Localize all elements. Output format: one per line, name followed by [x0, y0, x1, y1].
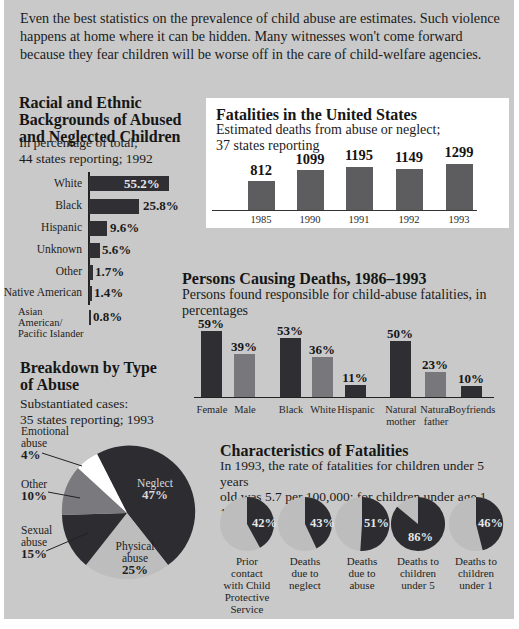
racial-row-other: Other: [0, 264, 88, 278]
mini-pie-value-2: 43%: [310, 516, 335, 531]
pie-label-physical: Physical abuse 25%: [110, 540, 160, 576]
racial-row-black: Black: [0, 198, 88, 212]
racial-bar-other: [89, 265, 93, 280]
racial-value-white: 55.2%: [124, 176, 160, 191]
racial-value-unknown: 5.6%: [102, 242, 131, 257]
fatalities-value-1991: 1195: [334, 147, 384, 164]
racial-value-black: 25.8%: [143, 198, 179, 213]
fatalities-year-1990: 1990: [285, 214, 335, 225]
characteristics-title: Characteristics of Fatalities: [220, 442, 408, 459]
persons-chart-title: Persons Causing Deaths, 1986–1993: [182, 270, 426, 287]
mini-pie-caption-2: Deaths due to neglect: [275, 555, 335, 591]
mini-pie-caption-4: Deaths to children under 5: [388, 555, 448, 591]
mini-pie-caption-1: Prior contact with Child Protective Serv…: [217, 555, 277, 615]
persons-bar-hispanic: [345, 385, 366, 397]
fatalities-axis: [212, 210, 477, 211]
characteristics-pies: [200, 490, 519, 560]
persons-value-female: 59%: [191, 316, 231, 332]
mini-pie-caption-5: Deaths to children under 1: [446, 555, 506, 591]
persons-value-natural-father: 23%: [415, 357, 455, 373]
racial-row-asian-american: Asian American/ Pacific Islander: [0, 305, 88, 331]
racial-bar-black: [89, 199, 139, 214]
persons-bar-black: [280, 338, 301, 397]
fatalities-bar-1985: [248, 181, 275, 210]
persons-value-male: 39%: [224, 339, 264, 355]
fatalities-bar-1990: [297, 170, 324, 210]
mini-pie-value-4: 86%: [408, 530, 433, 545]
racial-value-hispanic: 9.6%: [110, 220, 139, 235]
racial-value-native-american: 1.4%: [94, 285, 123, 300]
racial-row-hispanic: Hispanic: [0, 220, 88, 234]
persons-value-boyfriends: 10%: [451, 371, 491, 387]
fatalities-value-1993: 1299: [434, 144, 484, 161]
persons-value-hispanic: 11%: [335, 370, 375, 386]
fatalities-year-1992: 1992: [384, 214, 434, 225]
persons-bar-natural-mother: [390, 341, 411, 397]
mini-pie-value-3: 51%: [364, 516, 389, 531]
persons-bar-female: [201, 331, 222, 397]
fatalities-bar-1992: [396, 169, 423, 210]
persons-label-boyfriends: Boyfriends: [442, 404, 502, 416]
racial-chart-subtitle: In percentage of total; 44 states report…: [19, 135, 199, 166]
persons-axis: [194, 397, 494, 398]
fatalities-bar-1991: [346, 167, 373, 210]
persons-bar-white: [312, 357, 333, 397]
fatalities-value-1990: 1099: [285, 151, 335, 168]
racial-value-asian-american: 0.8%: [93, 309, 122, 324]
persons-value-natural-mother: 50%: [380, 326, 420, 342]
persons-bar-male: [234, 354, 255, 397]
fatalities-value-1992: 1149: [384, 149, 434, 166]
fatalities-year-1993: 1993: [434, 214, 484, 225]
racial-value-other: 1.7%: [95, 264, 124, 279]
fatalities-year-1991: 1991: [334, 214, 384, 225]
intro-paragraph: Even the best statistics on the prevalen…: [20, 9, 500, 63]
mini-pie-value-1: 42%: [252, 516, 277, 531]
fatalities-value-1985: 812: [236, 162, 286, 179]
racial-row-white: White: [0, 176, 88, 190]
racial-bar-hispanic: [89, 221, 107, 236]
mini-pie-value-5: 46%: [478, 516, 503, 531]
racial-bar-unknown: [89, 243, 100, 258]
racial-bar-native-american: [89, 286, 92, 301]
persons-bar-natural-father: [425, 372, 446, 397]
racial-row-unknown: Unknown: [0, 242, 88, 256]
persons-value-black: 53%: [270, 323, 310, 339]
persons-value-white: 36%: [302, 342, 342, 358]
persons-bar-boyfriends: [461, 386, 482, 397]
pie-label-sexual: Sexual abuse 15%: [21, 524, 52, 560]
racial-row-native-american: Native American: [0, 285, 88, 299]
pie-label-emotional: Emotional abuse 4%: [21, 425, 69, 461]
pie-label-neglect: Neglect 47%: [130, 477, 180, 501]
pie-label-other: Other 10%: [21, 478, 47, 502]
fatalities-bar-1993: [446, 164, 473, 210]
racial-bar-asian-american: [89, 310, 91, 325]
fatalities-chart-title: Fatalities in the United States: [216, 106, 417, 123]
mini-pie-caption-3: Deaths due to abuse: [332, 555, 392, 591]
persons-chart-subtitle: Persons found responsible for child-abus…: [182, 287, 519, 318]
breakdown-chart-title: Breakdown by Type of Abuse: [20, 359, 200, 393]
fatalities-year-1985: 1985: [236, 214, 286, 225]
